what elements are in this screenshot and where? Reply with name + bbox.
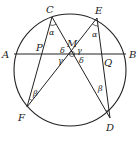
angle-delta-upper: δ (60, 46, 65, 55)
angle-arc-f (29, 99, 32, 101)
butterfly-diagram: A B C E F D M P Q α α β β δ δ γ γ (0, 0, 140, 143)
angle-gamma-lower: γ (58, 56, 63, 65)
label-c: C (46, 4, 54, 15)
label-b: B (128, 49, 136, 60)
angle-beta-d: β (97, 84, 103, 93)
segment-cd (52, 17, 110, 118)
diagram-canvas: A B C E F D M P Q α α β β δ δ γ γ (0, 0, 140, 143)
segment-ed (97, 18, 110, 118)
angle-arc-e (93, 24, 99, 26)
label-a: A (1, 49, 9, 60)
angle-beta-f: β (32, 89, 38, 98)
label-p: P (35, 42, 43, 53)
angle-gamma-upper: γ (77, 46, 82, 55)
angle-delta-lower: δ (79, 56, 84, 65)
label-d: D (105, 122, 114, 133)
label-f: F (17, 112, 26, 123)
angle-alpha-e: α (92, 30, 98, 39)
label-e: E (94, 5, 103, 16)
label-q: Q (104, 57, 112, 68)
angle-arc-c (50, 24, 56, 25)
angle-alpha-c: α (49, 28, 55, 37)
